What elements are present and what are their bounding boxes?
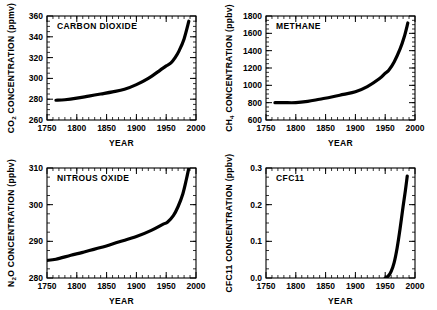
- panel-nitrous-oxide: 175018001850190019502000280290300310YEAR…: [0, 152, 218, 310]
- x-tick-label: 2000: [187, 123, 206, 133]
- x-tick-label: 2000: [406, 123, 425, 133]
- y-tick-label: 320: [29, 53, 43, 63]
- y-tick-label: 280: [29, 273, 43, 283]
- chart-nitrous-oxide: 175018001850190019502000280290300310YEAR…: [0, 152, 218, 310]
- y-tick-label: 800: [248, 98, 262, 108]
- y-tick-label: 360: [29, 11, 43, 21]
- y-tick-label: 600: [248, 115, 262, 125]
- data-curve: [56, 21, 189, 100]
- y-tick-label: 340: [29, 32, 43, 42]
- plot-frame: [47, 168, 196, 278]
- plot-frame: [266, 16, 415, 120]
- x-tick-label: 1850: [316, 123, 335, 133]
- x-tick-label: 2000: [406, 281, 425, 291]
- panel-title: METHANE: [276, 21, 321, 31]
- panel-cfc11: 1750180018501900195020000.00.10.20.3YEAR…: [218, 152, 437, 310]
- x-axis-title: YEAR: [328, 296, 353, 306]
- y-tick-label: 1000: [243, 80, 262, 90]
- x-axis-title: YEAR: [109, 138, 134, 148]
- chart-cfc11: 1750180018501900195020000.00.10.20.3YEAR…: [218, 152, 437, 310]
- panel-title: NITROUS OXIDE: [57, 173, 129, 183]
- y-tick-label: 1400: [243, 46, 262, 56]
- greenhouse-gas-figure: 1750180018501900195020002602803003203403…: [0, 0, 437, 310]
- panel-title: CARBON DIOXIDE: [57, 21, 137, 31]
- x-tick-label: 1800: [67, 123, 86, 133]
- x-tick-label: 1950: [376, 123, 395, 133]
- chart-carbon-dioxide: 1750180018501900195020002602803003203403…: [0, 0, 218, 152]
- y-axis-title: CFC11 CONCENTRATION (ppbv): [224, 154, 234, 293]
- x-tick-label: 1800: [286, 123, 305, 133]
- panel-carbon-dioxide: 1750180018501900195020002602803003203403…: [0, 0, 218, 152]
- y-axis-title: CO2 CONCENTRATION (ppmv): [6, 3, 17, 133]
- x-axis-title: YEAR: [109, 296, 134, 306]
- y-tick-label: 0.0: [250, 273, 262, 283]
- x-tick-label: 2000: [187, 281, 206, 291]
- y-tick-label: 1600: [243, 28, 262, 38]
- x-tick-label: 1850: [97, 123, 116, 133]
- y-tick-label: 0.2: [250, 200, 262, 210]
- plot-frame: [266, 168, 415, 278]
- x-tick-label: 1900: [346, 123, 365, 133]
- y-tick-label: 310: [29, 163, 43, 173]
- panel-grid: 1750180018501900195020002602803003203403…: [0, 0, 437, 310]
- panel-methane: 1750180018501900195020006008001000120014…: [218, 0, 437, 152]
- y-tick-label: 290: [29, 236, 43, 246]
- x-tick-label: 1950: [157, 281, 176, 291]
- y-tick-label: 300: [29, 73, 43, 83]
- y-axis-title: CH4 CONCENTRATION (ppbv): [224, 4, 235, 132]
- x-tick-label: 1900: [127, 123, 146, 133]
- x-axis-title: YEAR: [328, 138, 353, 148]
- y-tick-label: 1800: [243, 11, 262, 21]
- y-tick-label: 300: [29, 200, 43, 210]
- x-tick-label: 1950: [376, 281, 395, 291]
- y-tick-label: 0.1: [250, 236, 262, 246]
- x-tick-label: 1850: [316, 281, 335, 291]
- x-tick-label: 1900: [127, 281, 146, 291]
- y-axis-title: N2O CONCENTRATION (ppbv): [6, 159, 17, 287]
- x-tick-label: 1800: [286, 281, 305, 291]
- panel-title: CFC11: [276, 173, 304, 183]
- x-tick-label: 1850: [97, 281, 116, 291]
- chart-methane: 1750180018501900195020006008001000120014…: [218, 0, 437, 152]
- y-tick-label: 280: [29, 94, 43, 104]
- x-tick-label: 1800: [67, 281, 86, 291]
- y-tick-label: 260: [29, 115, 43, 125]
- y-tick-label: 0.3: [250, 163, 262, 173]
- plot-frame: [47, 16, 196, 120]
- y-tick-label: 1200: [243, 63, 262, 73]
- data-curve: [385, 176, 407, 278]
- x-tick-label: 1950: [157, 123, 176, 133]
- data-curve: [275, 23, 408, 103]
- x-tick-label: 1900: [346, 281, 365, 291]
